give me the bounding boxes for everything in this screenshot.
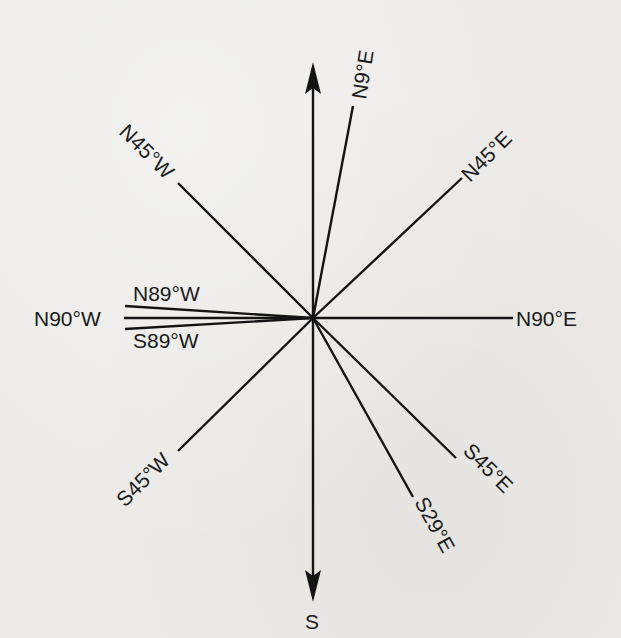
ray-s45e [313,318,456,458]
label-n45e: N45°E [457,126,516,185]
label-s45e: S45°E [459,439,518,498]
label-s29e: S29°E [411,493,460,556]
diagram-svg: N9°E N45°E N90°E S45°E S29°E S45°W S89°W… [0,0,621,638]
label-n89w: N89°W [133,282,200,305]
compass-bearing-diagram: N9°E N45°E N90°E S45°E S29°E S45°W S89°W… [0,0,621,638]
label-s45w: S45°W [112,448,175,511]
ray-s29e [313,318,413,497]
ray-s89w [125,318,313,329]
label-n90w: N90°W [34,307,101,330]
label-n90e: N90°E [516,307,577,330]
label-s89w: S89°W [133,329,199,352]
ray-n89w [125,306,313,318]
label-south: S [305,610,319,633]
label-n45w: N45°W [115,120,179,184]
label-n9e: N9°E [347,48,377,100]
